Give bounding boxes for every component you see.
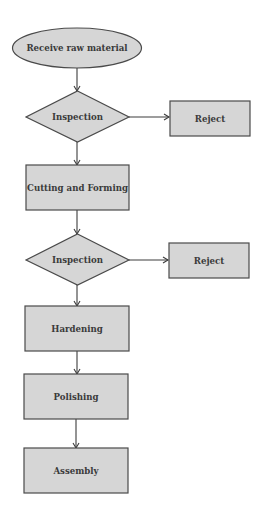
node-inspection-1: Inspection	[26, 91, 129, 142]
node-assembly: Assembly	[24, 448, 128, 493]
node-receive-raw-material: Receive raw material	[13, 28, 142, 68]
node-label: Hardening	[51, 324, 102, 334]
edge-inspection-1-to-cutting	[74, 142, 80, 165]
edge-inspection-1-to-reject-1	[129, 114, 169, 120]
node-label: Assembly	[52, 466, 99, 476]
node-reject-1: Reject	[170, 101, 250, 136]
edge-inspection-2-to-hardening	[74, 285, 80, 306]
node-polishing: Polishing	[24, 374, 128, 419]
edge-cutting-to-inspection-2	[74, 210, 80, 234]
node-hardening: Hardening	[25, 306, 129, 351]
node-label: Reject	[195, 114, 225, 124]
edge-hardening-to-polishing	[74, 351, 80, 374]
node-reject-2: Reject	[169, 243, 249, 278]
node-label: Polishing	[53, 392, 98, 402]
node-cutting-and-forming: Cutting and Forming	[26, 165, 129, 210]
node-inspection-2: Inspection	[26, 234, 129, 285]
node-label: Receive raw material	[26, 43, 128, 53]
edge-inspection-2-to-reject-2	[129, 257, 168, 263]
flowchart: Receive raw material Inspection Reject C…	[0, 0, 264, 518]
node-label: Reject	[194, 256, 224, 266]
node-label: Cutting and Forming	[27, 183, 128, 193]
node-label: Inspection	[52, 112, 104, 122]
node-label: Inspection	[52, 255, 104, 265]
edge-start-to-inspection-1	[74, 68, 80, 91]
edge-polishing-to-assembly	[73, 419, 79, 448]
